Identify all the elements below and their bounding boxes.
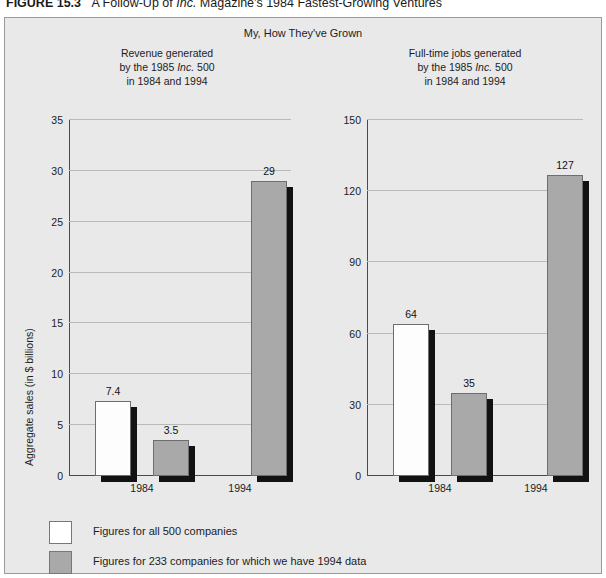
bar: 35: [451, 393, 487, 476]
bar: 3.5: [153, 440, 189, 476]
figure-caption: FIGURE 15.3 A Follow-Up of Inc. Magazine…: [6, 0, 442, 10]
figure-caption-italic: Inc.: [176, 0, 196, 10]
y-axis-tick-label: 15: [51, 317, 63, 329]
figure-caption-pre: A Follow-Up of: [91, 0, 176, 10]
bar: 7.4: [95, 401, 131, 476]
gridline: [69, 119, 291, 120]
bar-rect: [547, 175, 583, 476]
bar-rect: [251, 181, 287, 476]
y-axis-tick-label: 0: [57, 470, 63, 482]
chart-suptitle: My, How They've Grown: [5, 27, 601, 39]
bar-shadow-bottom: [553, 476, 589, 482]
chart-jobs-title-line2: by the 1985 Inc. 500: [329, 60, 601, 74]
gridline: [367, 119, 583, 120]
bar-shadow-right: [583, 181, 589, 482]
chart-revenue-title: Revenue generated by the 1985 Inc. 500 i…: [7, 46, 307, 88]
y-axis-tick-label: 30: [349, 399, 361, 411]
chart-jobs: Full-time jobs generated by the 1985 Inc…: [307, 46, 601, 506]
x-axis-tick-label: 1984: [130, 482, 153, 494]
chart-jobs-title-line1: Full-time jobs generated: [329, 46, 601, 60]
y-axis-tick-label: 20: [51, 267, 63, 279]
y-axis-tick-label: 90: [349, 256, 361, 268]
y-axis-tick-label: 30: [51, 165, 63, 177]
legend-swatch-white: [49, 521, 72, 544]
bar-value-label: 127: [556, 159, 574, 171]
title-pre: by the 1985: [417, 61, 475, 73]
y-axis-tick-label: 0: [355, 470, 361, 482]
bar-value-label: 64: [405, 308, 417, 320]
bar-value-label: 3.5: [164, 424, 179, 436]
y-axis-tick-label: 5: [57, 419, 63, 431]
legend-label: Figures for 233 companies for which we h…: [93, 555, 366, 567]
y-axis-tick-label: 150: [343, 114, 361, 126]
chart-revenue-plot: 051015202530357.43.51984291994: [69, 120, 291, 476]
bar-shadow-right: [429, 330, 435, 482]
y-axis-tick-label: 10: [51, 368, 63, 380]
y-axis-tick-label: 60: [349, 328, 361, 340]
chart-revenue: Revenue generated by the 1985 Inc. 500 i…: [7, 46, 307, 506]
y-axis-tick-label: 120: [343, 185, 361, 197]
bar-rect: [451, 393, 487, 476]
bar: 29: [251, 181, 287, 476]
figure-panel: My, How They've Grown Revenue generated …: [4, 17, 602, 574]
gridline: [69, 170, 291, 171]
chart-revenue-title-line1: Revenue generated: [27, 46, 307, 60]
figure-caption-post: Magazine's 1984 Fastest-Growing Ventures: [196, 0, 442, 10]
x-axis-tick-label: 1984: [428, 482, 451, 494]
y-axis-tick-label: 35: [51, 114, 63, 126]
x-axis-tick-label: 1994: [524, 482, 547, 494]
bar-rect: [153, 440, 189, 476]
chart-jobs-yaxis: [367, 120, 368, 476]
bar-rect: [393, 324, 429, 476]
bar-shadow-right: [487, 399, 493, 482]
bar-shadow-right: [131, 407, 137, 482]
chart-revenue-title-line2: by the 1985 Inc. 500: [27, 60, 307, 74]
x-axis-tick-label: 1994: [228, 482, 251, 494]
bar-rect: [95, 401, 131, 476]
bar-value-label: 35: [463, 377, 475, 389]
title-italic: Inc.: [475, 61, 492, 73]
chart-revenue-ylabel: Aggregate sales (in $ billions): [23, 328, 35, 466]
bar-shadow-right: [287, 187, 293, 482]
bar-value-label: 29: [263, 165, 275, 177]
figure-root: FIGURE 15.3 A Follow-Up of Inc. Magazine…: [0, 0, 606, 578]
title-italic: Inc.: [177, 61, 194, 73]
chart-revenue-title-line3: in 1984 and 1994: [27, 74, 307, 88]
chart-jobs-title: Full-time jobs generated by the 1985 Inc…: [307, 46, 601, 88]
legend-label: Figures for all 500 companies: [93, 525, 237, 537]
title-pre: by the 1985: [119, 61, 177, 73]
chart-jobs-title-line3: in 1984 and 1994: [329, 74, 601, 88]
bar-shadow-bottom: [457, 476, 493, 482]
chart-revenue-yaxis: [69, 120, 70, 476]
bar: 64: [393, 324, 429, 476]
bar-shadow-bottom: [159, 476, 195, 482]
bar: 127: [547, 175, 583, 476]
bar-value-label: 7.4: [106, 385, 121, 397]
y-axis-tick-label: 25: [51, 216, 63, 228]
title-post: 500: [194, 61, 214, 73]
title-post: 500: [492, 61, 512, 73]
figure-number: FIGURE 15.3: [6, 0, 81, 10]
bar-shadow-bottom: [257, 476, 293, 482]
legend-swatch-gray: [49, 551, 72, 574]
chart-jobs-plot: 0306090120150643519841271994: [367, 120, 583, 476]
figure-caption-strip: FIGURE 15.3 A Follow-Up of Inc. Magazine…: [0, 0, 606, 14]
